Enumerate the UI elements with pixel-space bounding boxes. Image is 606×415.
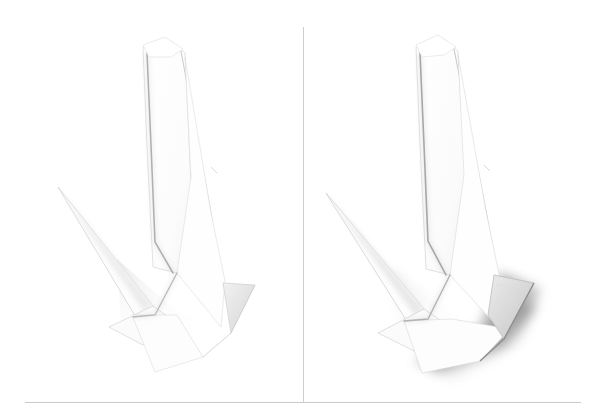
origami-illustration-6 <box>304 27 581 402</box>
figure-root: 5 <box>0 0 606 415</box>
origami-photo-step-6 <box>304 27 581 402</box>
panel-step-5: 5 <box>25 27 303 402</box>
panel-step-6: 6 <box>304 27 581 402</box>
origami-photo-step-5 <box>25 27 303 402</box>
origami-illustration-5 <box>25 27 303 402</box>
